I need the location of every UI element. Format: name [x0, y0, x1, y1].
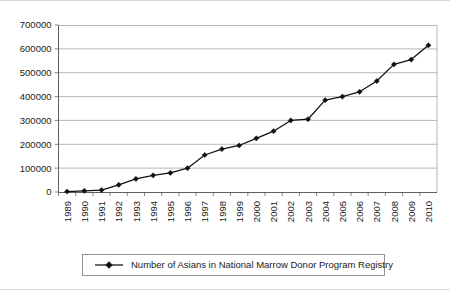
data-point-marker — [99, 187, 104, 192]
x-tick-label: 2009 — [406, 201, 417, 222]
y-axis-gridlines — [59, 49, 438, 168]
y-axis-tick-marks — [55, 25, 59, 192]
y-tick-label: 0 — [46, 186, 51, 197]
x-tick-label: 1989 — [62, 201, 73, 222]
y-tick-label: 100000 — [20, 163, 52, 174]
x-tick-label: 2007 — [371, 201, 382, 222]
y-tick-label: 400000 — [20, 91, 52, 102]
x-tick-label: 1998 — [217, 201, 228, 222]
y-tick-label: 300000 — [20, 115, 52, 126]
line-chart: 0100000200000300000400000500000600000700… — [0, 1, 450, 290]
x-tick-label: 1996 — [182, 201, 193, 222]
x-axis-tick-labels: 1989199019911992199319941995199619971998… — [62, 201, 434, 222]
data-point-marker — [168, 170, 173, 175]
x-tick-label: 2002 — [285, 201, 296, 222]
x-tick-label: 2010 — [423, 201, 434, 222]
data-point-marker — [340, 94, 345, 99]
chart-figure: 0100000200000300000400000500000600000700… — [0, 0, 450, 290]
data-point-marker — [151, 173, 156, 178]
data-point-marker — [133, 176, 138, 181]
x-tick-label: 1995 — [165, 201, 176, 222]
x-tick-label: 1993 — [131, 201, 142, 222]
x-tick-label: 1991 — [96, 201, 107, 222]
x-tick-label: 2004 — [320, 201, 331, 222]
series-markers — [65, 43, 432, 194]
data-point-marker — [116, 182, 121, 187]
x-tick-label: 2000 — [251, 201, 262, 222]
x-tick-label: 2005 — [337, 201, 348, 222]
y-tick-label: 200000 — [20, 139, 52, 150]
data-point-marker — [65, 189, 70, 194]
y-tick-label: 600000 — [20, 43, 52, 54]
x-tick-label: 2008 — [389, 201, 400, 222]
legend-label-asians-registry: Number of Asians in National Marrow Dono… — [131, 259, 393, 270]
y-axis-tick-labels: 0100000200000300000400000500000600000700… — [20, 19, 52, 197]
data-point-marker — [237, 143, 242, 148]
x-tick-label: 2001 — [268, 201, 279, 222]
data-point-marker — [219, 146, 224, 151]
y-tick-label: 700000 — [20, 19, 52, 30]
x-tick-label: 1994 — [148, 201, 159, 222]
x-tick-label: 1992 — [113, 201, 124, 222]
x-tick-label: 2003 — [303, 201, 314, 222]
y-tick-label: 500000 — [20, 67, 52, 78]
x-tick-label: 1997 — [199, 201, 210, 222]
x-tick-label: 2006 — [354, 201, 365, 222]
data-point-marker — [254, 136, 259, 141]
x-tick-label: 1999 — [234, 201, 245, 222]
x-tick-label: 1990 — [79, 201, 90, 222]
series-line-asians-registry — [67, 45, 428, 191]
